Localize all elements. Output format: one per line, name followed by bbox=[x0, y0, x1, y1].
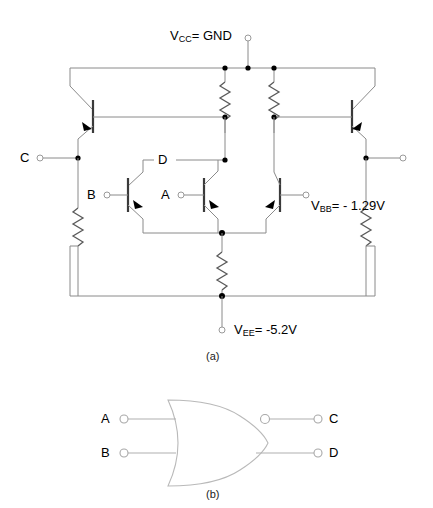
vcc-label: VCC= GND bbox=[170, 28, 232, 44]
schematic-label-a: A bbox=[161, 187, 170, 202]
q-right-emitter-arrow bbox=[352, 122, 362, 131]
vbb-label-tail: = - 1.29V bbox=[332, 198, 385, 213]
caption-a: (a) bbox=[206, 350, 219, 362]
qa-collector-slant bbox=[204, 171, 218, 185]
gate-output-d-terminal[interactable] bbox=[314, 449, 322, 457]
schematic-label-c: C bbox=[20, 150, 29, 165]
rc1-zigzag bbox=[220, 82, 230, 120]
vee-label-subscript: EE bbox=[243, 328, 255, 338]
output-c-terminal-group bbox=[37, 155, 81, 161]
qb-emitter-arrow bbox=[133, 200, 143, 209]
vcc-label-tail: = GND bbox=[192, 28, 232, 43]
transistor-a bbox=[178, 160, 219, 233]
vbb-label: VBB= - 1.29V bbox=[311, 198, 385, 214]
left-ef-collector-wire bbox=[70, 86, 93, 110]
schematic-label-b: B bbox=[87, 187, 96, 202]
vee-label-tail: = -5.2V bbox=[255, 322, 297, 337]
transistor-right-emitter-follower bbox=[274, 100, 366, 158]
gate-label-c: C bbox=[329, 411, 338, 426]
emitter-resistor-right bbox=[361, 158, 371, 296]
caption-b: (b) bbox=[206, 488, 219, 500]
qref-emitter-arrow bbox=[265, 200, 275, 209]
gate-output-c-inversion-bubble bbox=[261, 415, 270, 424]
vbb-terminal-circle[interactable] bbox=[303, 192, 309, 198]
part-b-logic-symbol bbox=[120, 400, 322, 486]
gate-input-a-terminal[interactable] bbox=[120, 415, 128, 423]
vee-label-main: V bbox=[234, 322, 243, 337]
output-right-terminal-circle[interactable] bbox=[400, 155, 406, 161]
q-left-emitter-arrow bbox=[82, 122, 92, 131]
node-vcc-rc1 bbox=[222, 65, 227, 70]
gate-label-b: B bbox=[101, 445, 110, 460]
qa-emitter-arrow bbox=[209, 200, 219, 209]
vee-label: VEE= -5.2V bbox=[234, 322, 297, 338]
vbb-label-subscript: BB bbox=[320, 204, 332, 214]
or-gate-body[interactable] bbox=[168, 400, 268, 486]
gate-output-c-terminal[interactable] bbox=[314, 415, 322, 423]
qb-collector-slant bbox=[128, 172, 143, 186]
input-b-terminal-circle[interactable] bbox=[104, 192, 110, 198]
vee-terminal-circle[interactable] bbox=[219, 327, 225, 333]
re-left-zigzag bbox=[73, 208, 83, 246]
node-vcc-rc2 bbox=[271, 65, 276, 70]
vcc-label-main: V bbox=[170, 28, 179, 43]
transistor-left-emitter-follower bbox=[78, 100, 225, 158]
figure-container: VCC= GND VBB= - 1.29V VEE= -5.2V C B A D… bbox=[0, 0, 433, 508]
vcc-terminal-circle[interactable] bbox=[245, 35, 251, 41]
circuit-schematic bbox=[0, 0, 433, 508]
tail-resistor bbox=[217, 233, 227, 296]
output-right-terminal-group bbox=[363, 155, 406, 161]
rc2-zigzag bbox=[269, 82, 279, 120]
node-d-dot bbox=[222, 157, 227, 162]
node-vcc-center bbox=[245, 65, 250, 70]
input-a-terminal-circle[interactable] bbox=[178, 192, 184, 198]
gate-label-d: D bbox=[329, 445, 338, 460]
part-a-circuit bbox=[37, 35, 406, 333]
vcc-supply-node bbox=[245, 35, 251, 68]
transistor-b bbox=[104, 178, 143, 233]
right-ef-collector-wire bbox=[352, 86, 375, 110]
output-c-terminal-circle[interactable] bbox=[37, 155, 43, 161]
emitter-resistor-left bbox=[73, 158, 83, 296]
gate-input-b-terminal[interactable] bbox=[120, 449, 128, 457]
transistor-vbb-reference bbox=[265, 117, 309, 233]
schematic-label-d: D bbox=[156, 152, 169, 167]
vbb-label-main: V bbox=[311, 198, 320, 213]
rtail-zigzag bbox=[217, 252, 227, 290]
gate-label-a: A bbox=[101, 411, 110, 426]
vcc-label-subscript: CC bbox=[179, 34, 192, 44]
